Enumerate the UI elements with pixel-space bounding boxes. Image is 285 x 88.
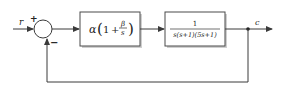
svg-text:s: s [121, 29, 125, 37]
output-label: c [255, 18, 260, 27]
block-diagram: r + − α ( 1 + β s ) 1 s(s+1)(5s+1) c [0, 0, 285, 88]
svg-text:(: ( [97, 20, 103, 38]
summing-junction [34, 20, 52, 38]
svg-text:α: α [89, 23, 97, 36]
svg-text:+: + [111, 24, 119, 35]
minus-sign: − [50, 37, 58, 48]
svg-text:): ) [128, 20, 134, 38]
svg-text:1: 1 [103, 24, 109, 35]
svg-text:β: β [120, 20, 125, 28]
input-label: r [19, 17, 24, 27]
svg-text:s(s+1)(5s+1): s(s+1)(5s+1) [173, 31, 217, 39]
svg-text:1: 1 [193, 20, 197, 28]
